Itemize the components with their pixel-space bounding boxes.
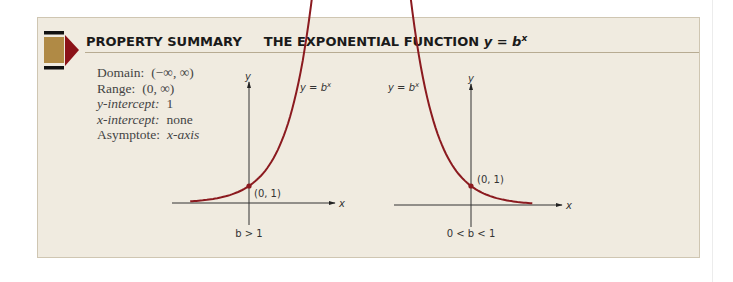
- exponential-graphs: x y (0, 1) y = bx b > 1 x y (0, 1) y = b…: [0, 0, 733, 282]
- x-axis-label: x: [565, 200, 572, 211]
- point-label: (0, 1): [254, 188, 281, 199]
- curve-label-base: y = b: [387, 82, 415, 93]
- curve-label-exp: x: [326, 81, 332, 89]
- intercept-point: [246, 183, 251, 188]
- decay-curve: [406, 0, 532, 203]
- graph-decay: x y (0, 1) y = bx 0 < b < 1: [387, 0, 572, 239]
- x-axis-label: x: [338, 198, 345, 209]
- y-axis-label: y: [244, 71, 252, 82]
- condition-label: 0 < b < 1: [447, 228, 496, 239]
- intercept-point: [468, 183, 473, 188]
- graph-growth: x y (0, 1) y = bx b > 1: [172, 0, 345, 239]
- curve-label: y = bx: [299, 81, 332, 93]
- curve-label-exp: x: [414, 81, 420, 89]
- growth-curve: [190, 0, 315, 201]
- condition-label: b > 1: [235, 228, 262, 239]
- curve-label-base: y = b: [299, 82, 327, 93]
- curve-label: y = bx: [387, 81, 420, 93]
- y-axis-label: y: [467, 73, 475, 84]
- point-label: (0, 1): [477, 174, 504, 185]
